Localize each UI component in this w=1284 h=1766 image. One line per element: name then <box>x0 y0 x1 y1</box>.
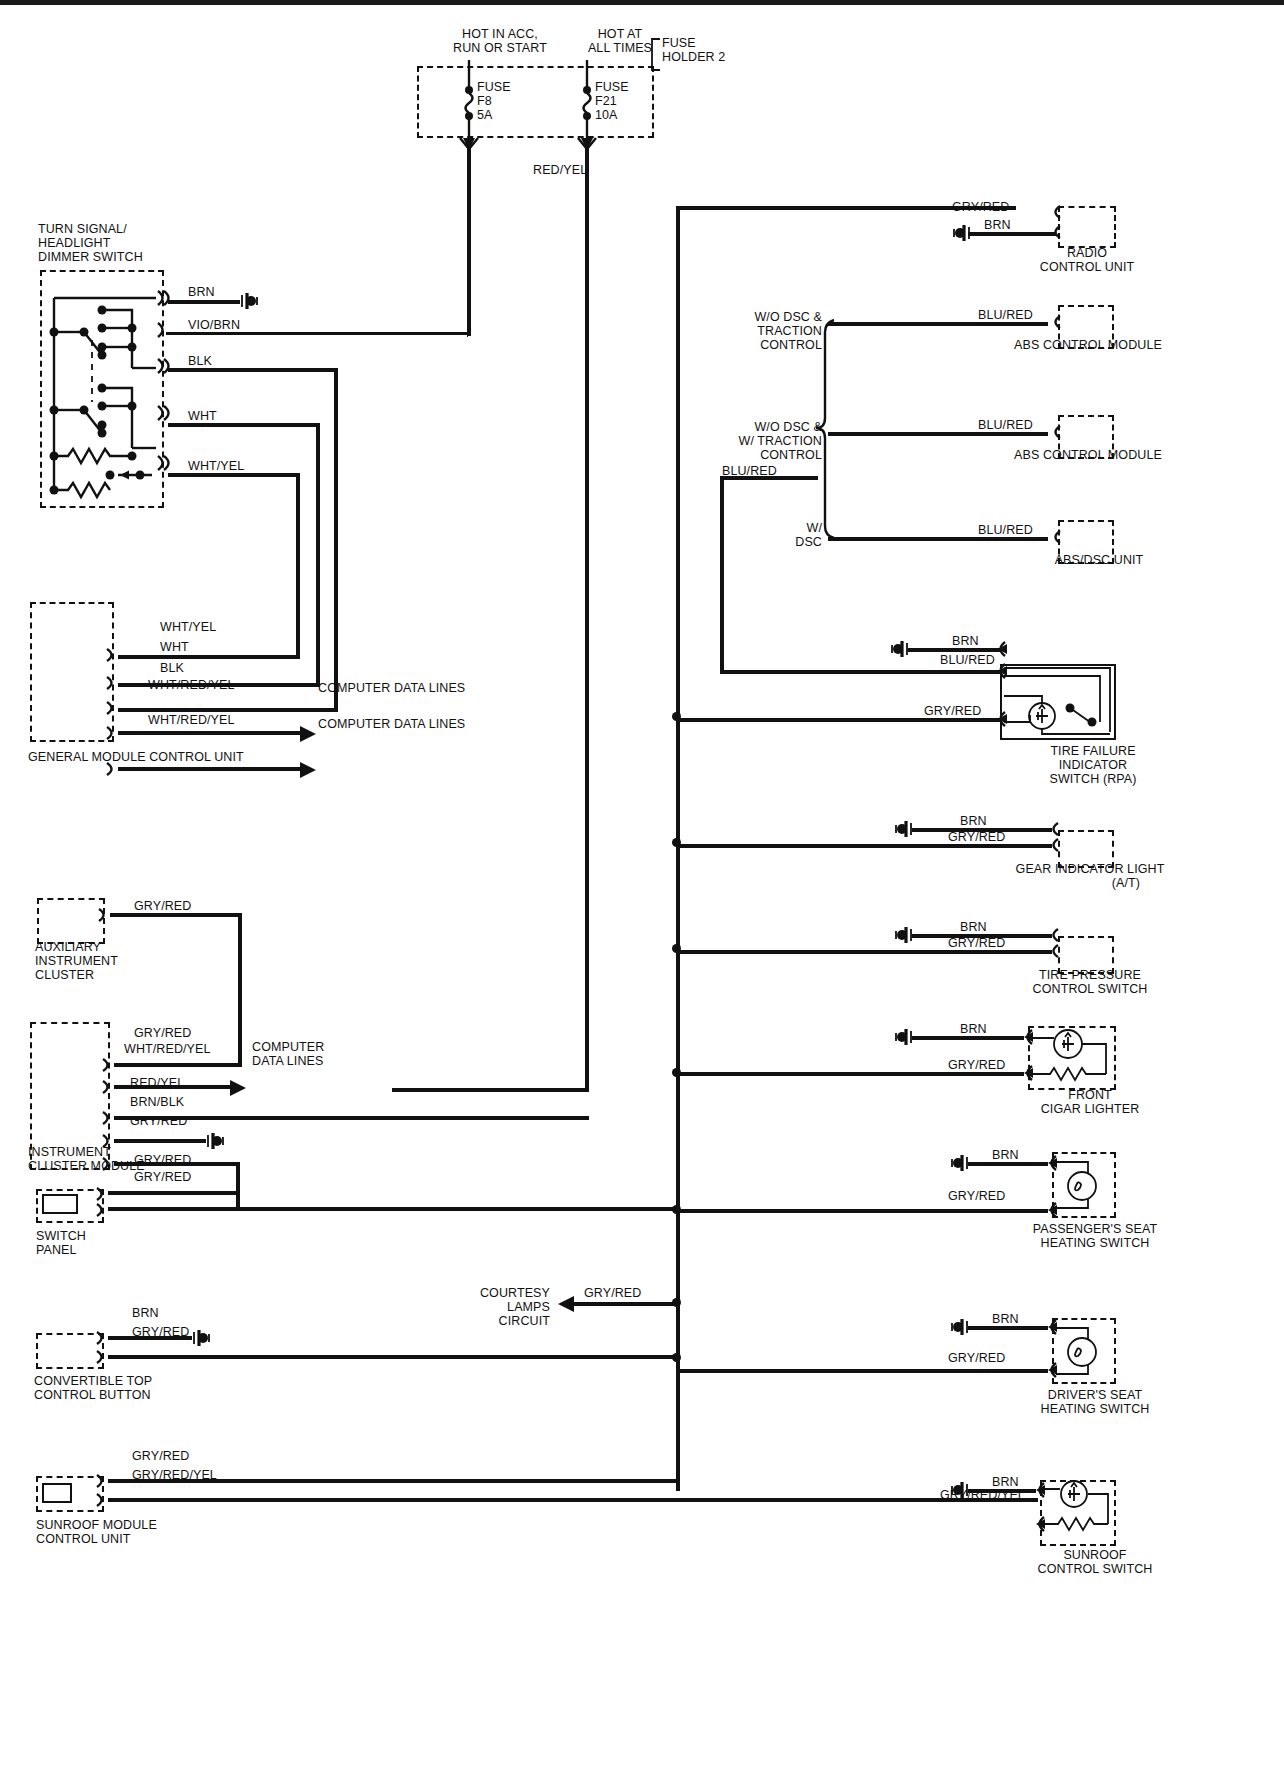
turn-signal-switch-internals <box>40 270 170 510</box>
ground-icon-5 <box>888 639 912 659</box>
wire-sp-gryred1 <box>108 1191 240 1195</box>
wire-aux-vertical <box>238 913 242 1065</box>
wire-gear-gryred <box>676 844 1052 848</box>
wire-label-ps-gryred: GRY/RED <box>948 1189 1005 1203</box>
wire-wht-turn <box>168 423 320 427</box>
wire-whtyel-vertical <box>296 473 300 659</box>
wire-label-tp-brn: BRN <box>960 920 987 934</box>
junction-dot-courtesy <box>672 1298 681 1307</box>
red-yel-trunk-label: RED/YEL <box>533 163 587 177</box>
turn-signal-switch-label: TURN SIGNAL/ HEADLIGHT DIMMER SWITCH <box>38 222 143 264</box>
fuse-holder-2-label: FUSE HOLDER 2 <box>662 36 725 64</box>
wire-label-abs2: BLU/RED <box>978 418 1033 432</box>
driver-seat-internals <box>1052 1318 1118 1386</box>
data-arrow-3-icon <box>228 1077 252 1097</box>
abs2-label: ABS CONTROL MODULE <box>1000 448 1176 462</box>
gmcu-terminal-2-icon <box>104 676 122 690</box>
pass-seat-label: PASSENGER'S SEAT HEATING SWITCH <box>1000 1222 1190 1250</box>
wire-label-ps-brn: BRN <box>992 1148 1019 1162</box>
wire-tf-blured <box>720 670 1000 674</box>
switch-panel-inner <box>42 1194 78 1214</box>
wire-icm-gryred2-down <box>236 1162 240 1208</box>
cigar-lighter-label: FRONT CIGAR LIGHTER <box>1000 1088 1180 1116</box>
wire-label-ds-brn: BRN <box>992 1312 1019 1326</box>
branch-blured-label: BLU/RED <box>722 464 777 478</box>
ground-icon-9 <box>948 1153 972 1173</box>
radio-terminal-1-icon <box>1048 205 1064 219</box>
computer-data-lines-1: COMPUTER DATA LINES <box>318 681 465 695</box>
instrument-cluster-label: INSTRUMENT CLUSTER MODULE <box>28 1145 145 1173</box>
wire-label-wht-turn: WHT <box>188 409 217 423</box>
wire-label-abs3: BLU/RED <box>978 523 1033 537</box>
wire-f8-vertical <box>467 148 471 336</box>
ground-icon-4 <box>950 223 974 243</box>
wire-label-ss-brn: BRN <box>992 1475 1019 1489</box>
wire-abs3 <box>828 537 1048 541</box>
fuse-holder-bracket <box>650 38 666 72</box>
wire-label-icm-whtredyel: WHT/RED/YEL <box>124 1042 211 1056</box>
wire-ds-gryred <box>676 1369 1048 1373</box>
wire-label-cigar-brn: BRN <box>960 1022 987 1036</box>
radio-terminal-2-icon <box>1048 225 1064 239</box>
terminal-wht-icon <box>154 405 176 421</box>
tire-pressure-label: TIRE PRESSURE CONTROL SWITCH <box>1000 968 1180 996</box>
wire-label-sunroof-gryredyel: GRY/RED/YEL <box>132 1468 217 1482</box>
wire-ds-brn <box>968 1326 1048 1330</box>
gmcu-terminal-3-icon <box>104 701 122 715</box>
wire-label-icm-redyel: RED/YEL <box>130 1076 184 1090</box>
wire-label-sp-gryred1: GRY/RED <box>134 1153 191 1167</box>
wire-label-ss-gryredyel: GRY/RED/YEL <box>940 1488 1025 1502</box>
cigar-lighter-internals <box>1028 1026 1118 1092</box>
wire-label-tp-gryred: GRY/RED <box>948 936 1005 950</box>
junction-dot-driver-seat <box>672 1353 681 1362</box>
computer-data-lines-2: COMPUTER DATA LINES <box>318 717 465 731</box>
wire-label-gear-gryred: GRY/RED <box>948 830 1005 844</box>
wire-blured-vertical <box>720 476 724 674</box>
driver-seat-label: DRIVER'S SEAT HEATING SWITCH <box>1000 1388 1190 1416</box>
wire-abs1 <box>828 322 1048 326</box>
sunroof-module-inner <box>42 1483 72 1503</box>
wire-ps-brn <box>968 1162 1048 1166</box>
tp-terminal-2-icon <box>1046 944 1062 958</box>
page-top-rule <box>0 0 1284 5</box>
radio-box <box>1058 206 1116 248</box>
wiring-diagram-sheet: HOT IN ACC, RUN OR START HOT AT ALL TIME… <box>0 0 1284 1766</box>
wire-aux-gryred <box>110 913 242 917</box>
ground-icon-7 <box>892 925 916 945</box>
wire-viobrn <box>166 332 471 335</box>
ground-icon-3 <box>190 1328 214 1348</box>
wire-sp-gryred2 <box>108 1207 678 1211</box>
wire-conv-gryred <box>108 1355 678 1359</box>
wire-blk-to-gmcu <box>118 708 338 712</box>
wire-redyel-vertical <box>585 148 589 1092</box>
wire-label-radio-gryred: GRY/RED <box>952 200 1009 214</box>
aux-cluster-box <box>37 898 105 944</box>
wire-ps-gryred <box>676 1209 1048 1213</box>
wire-cigar-brn <box>912 1036 1024 1040</box>
wire-redyel-to-cluster <box>392 1088 589 1092</box>
tire-failure-label: TIRE FAILURE INDICATOR SWITCH (RPA) <box>1008 744 1178 786</box>
aux-cluster-label: AUXILIARY INSTRUMENT CLUSTER <box>35 940 118 982</box>
wire-label-icm-brnblk: BRN/BLK <box>130 1095 184 1109</box>
computer-data-lines-3: COMPUTER DATA LINES <box>252 1040 324 1068</box>
wire-sunroof-gryredyel <box>108 1498 1038 1502</box>
data-arrow-2-icon <box>298 759 322 779</box>
gear-indicator-label: GEAR INDICATOR LIGHT <box>1000 862 1180 876</box>
sunroof-module-label: SUNROOF MODULE CONTROL UNIT <box>36 1518 157 1546</box>
wire-cigar-gryred <box>676 1072 1024 1076</box>
gear-terminal-2-icon <box>1046 838 1062 852</box>
wire-label-whtyel-turn: WHT/YEL <box>188 459 244 473</box>
tp-terminal-1-icon <box>1046 928 1062 942</box>
abs1-option-label: W/O DSC & TRACTION CONTROL <box>716 310 822 352</box>
ground-icon-8 <box>892 1027 916 1047</box>
wire-radio-brn <box>968 232 1056 236</box>
courtesy-lamps-label: COURTESY LAMPS CIRCUIT <box>440 1286 550 1328</box>
ground-icon-2 <box>204 1131 228 1151</box>
wire-brn-turn <box>168 300 240 304</box>
wire-tf-gryred <box>676 718 1000 722</box>
abs3-label: ABS/DSC UNIT <box>1030 553 1168 567</box>
sunroof-switch-label: SUNROOF CONTROL SWITCH <box>1000 1548 1190 1576</box>
gear-terminal-1-icon <box>1046 822 1062 836</box>
wire-tp-gryred <box>676 950 1052 954</box>
fuse-f8-label: FUSE F8 5A <box>477 80 511 122</box>
